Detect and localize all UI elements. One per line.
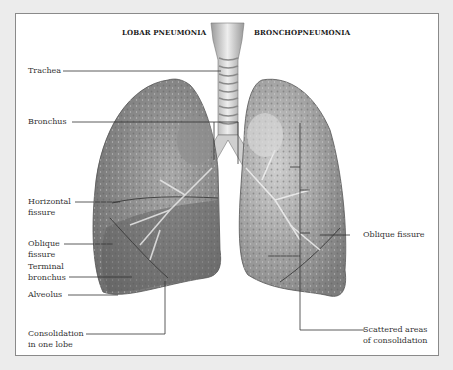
- heading-lobar-pneumonia: LOBAR PNEUMONIA: [122, 28, 206, 37]
- label-scattered-consolidation: Scattered areas of consolidation: [363, 325, 427, 346]
- lungs-illustration: [0, 0, 453, 370]
- label-trachea: Trachea: [28, 66, 61, 77]
- label-oblique-fissure-left: Oblique fissure: [28, 239, 60, 260]
- heading-bronchopneumonia: BRONCHOPNEUMONIA: [254, 28, 350, 37]
- left-lung-lobar: [93, 79, 221, 294]
- label-oblique-fissure-right: Oblique fissure: [363, 230, 425, 241]
- label-consolidation-one-lobe: Consolidation in one lobe: [28, 329, 84, 350]
- label-horizontal-fissure: Horizontal fissure: [28, 197, 71, 218]
- label-alveolus: Alveolus: [28, 290, 62, 301]
- right-lung-broncho: [239, 79, 345, 296]
- label-terminal-bronchus: Terminal bronchus: [28, 262, 66, 283]
- label-bronchus: Bronchus: [28, 117, 67, 128]
